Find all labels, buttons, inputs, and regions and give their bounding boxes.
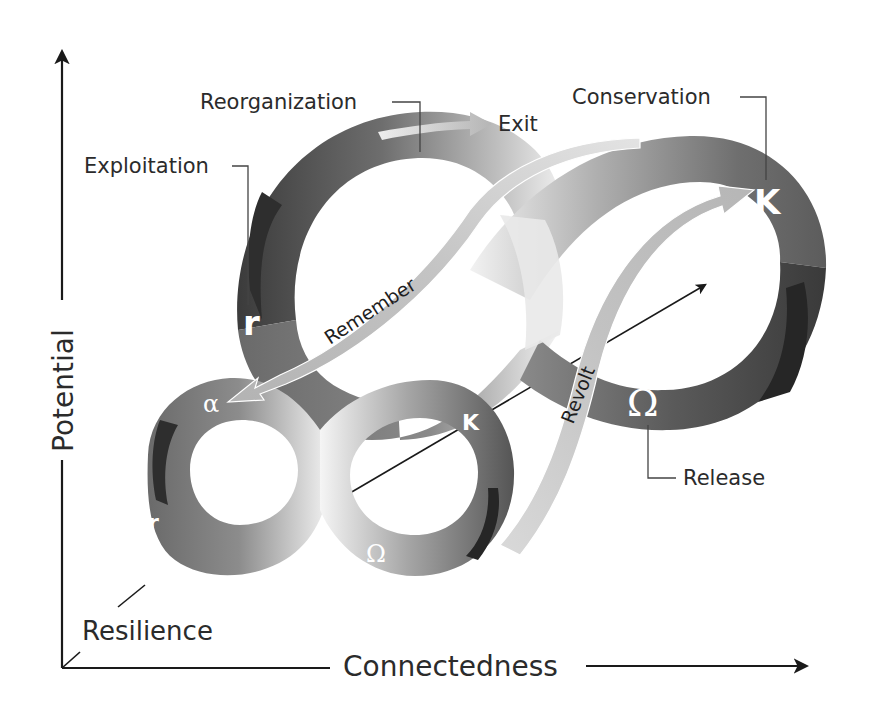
large-k-symbol: K [754, 182, 782, 222]
small-r-symbol: r [148, 510, 159, 535]
reorganization-label: Reorganization [200, 90, 357, 114]
small-k-symbol: K [462, 410, 480, 435]
z-axis-origin-stub [62, 652, 80, 668]
z-axis-lower [118, 585, 145, 607]
small-alpha-symbol: α [203, 390, 219, 418]
x-axis-label: Connectedness [343, 650, 558, 683]
exit-label: Exit [498, 112, 538, 136]
large-omega-symbol: Ω [627, 381, 659, 425]
large-alpha-symbol: α [404, 158, 430, 202]
conservation-label: Conservation [572, 85, 711, 109]
small-omega-symbol: Ω [366, 540, 386, 568]
panarchy-diagram: Potential Connectedness Resilience Exit … [0, 0, 869, 705]
y-axis-label: Potential [47, 329, 80, 452]
remember-label: Remember [320, 273, 420, 348]
z-axis-label: Resilience [82, 616, 213, 646]
release-label: Release [683, 466, 765, 490]
release-leader [648, 425, 676, 478]
large-r-symbol: r [243, 303, 260, 343]
exploitation-label: Exploitation [84, 154, 209, 178]
